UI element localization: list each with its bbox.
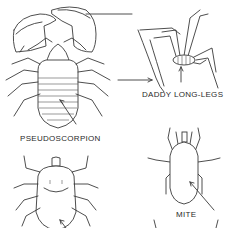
mite-label: MITE [176, 210, 196, 219]
arachnid-diagram: PSEUDOSCORPION DADDY LONG-LEGS MITE [0, 0, 226, 228]
daddy-long-legs-illustration [118, 10, 218, 92]
daddy-long-legs-label: DADDY LONG-LEGS [142, 90, 223, 99]
diagram-drawing [0, 0, 226, 228]
pseudoscorpion-label: PSEUDOSCORPION [20, 134, 101, 143]
tick-illustration [14, 156, 98, 228]
pseudoscorpion-illustration [6, 7, 132, 128]
